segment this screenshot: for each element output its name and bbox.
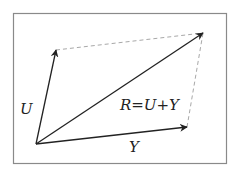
label-y: Y	[129, 138, 141, 156]
label-u: U	[20, 100, 34, 118]
vector-u-arrow	[36, 50, 56, 144]
label-r: R=U+Y	[119, 96, 181, 114]
dashed-line-y-to-r	[187, 33, 203, 127]
vector-diagram: U R=U+Y Y	[0, 0, 241, 173]
vector-r-arrow	[36, 33, 203, 144]
